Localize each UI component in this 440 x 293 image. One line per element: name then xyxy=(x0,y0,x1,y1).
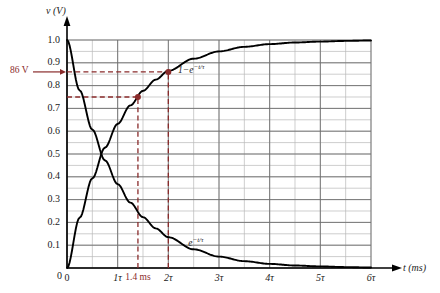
markers xyxy=(135,69,171,100)
y-tick-label: 0.4 xyxy=(34,170,60,181)
rc-response-chart: v (V) t (ms) 86 V 1.4 ms 1−e−t/τ e−t/τ 0… xyxy=(0,0,440,293)
y-tick-label: 0.2 xyxy=(34,216,60,227)
y-axis-title-text: v (V) xyxy=(46,5,66,16)
x-tick-label: 6τ xyxy=(358,272,384,283)
callout-86v-arrow xyxy=(33,69,66,75)
x-tick-label: 4τ xyxy=(257,272,283,283)
y-tick-label: 0.3 xyxy=(34,193,60,204)
annotation-falling-exponent: −t/τ xyxy=(192,236,203,244)
chart-canvas xyxy=(0,0,440,293)
annotation-rising-curve: 1−e−t/τ xyxy=(178,63,205,75)
x-axis-title-text: t (ms) xyxy=(403,262,426,273)
y-tick-label: 0.1 xyxy=(34,239,60,250)
x-tick-label: 1τ xyxy=(105,272,131,283)
axes xyxy=(64,16,402,271)
x-tick-label: 3τ xyxy=(206,272,232,283)
y-axis-title: v (V) xyxy=(46,5,66,16)
callout-86v-text: 86 V xyxy=(10,65,29,75)
y-tick-label: 0.5 xyxy=(34,148,60,159)
y-tick-label: 0.7 xyxy=(34,102,60,113)
annotation-falling-curve: e−t/τ xyxy=(188,236,203,248)
y-tick-label: 0.9 xyxy=(34,56,60,67)
x-tick-label: 2τ xyxy=(155,272,181,283)
x-tick-label: 0 xyxy=(54,272,80,283)
y-tick-label: 1.0 xyxy=(34,34,60,45)
annotation-rising-base: 1−e xyxy=(178,65,193,75)
x-axis-title: t (ms) xyxy=(403,262,426,273)
y-tick-label: 0.6 xyxy=(34,125,60,136)
x-tick-label: 5τ xyxy=(307,272,333,283)
callout-86v: 86 V xyxy=(10,65,29,75)
y-tick-label: 0.8 xyxy=(34,79,60,90)
annotation-rising-exponent: −t/τ xyxy=(193,63,204,71)
marker-point-2tau xyxy=(165,69,171,75)
marker-point-1.4ms xyxy=(135,94,141,100)
